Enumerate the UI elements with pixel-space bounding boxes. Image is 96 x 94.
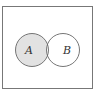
set-b-label: B <box>62 44 71 57</box>
venn-diagram: A B <box>0 0 96 94</box>
set-a-label: A <box>24 44 33 57</box>
